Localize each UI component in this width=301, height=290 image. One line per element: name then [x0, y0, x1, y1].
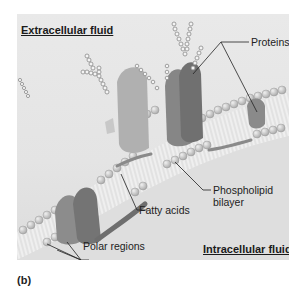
label-proteins: Proteins	[251, 36, 289, 48]
label-phospholipid-line1: Phospholipid	[213, 184, 273, 196]
label-fatty-acids: Fatty acids	[139, 204, 190, 216]
label-extracellular-fluid: Extracellular fluid	[21, 24, 113, 36]
peripheral-protein-right	[247, 99, 265, 129]
cell-membrane-illustration	[17, 14, 289, 260]
label-phospholipid-line2: bilayer	[213, 196, 244, 208]
integral-protein-central	[105, 67, 149, 153]
label-polar-regions: Polar regions	[83, 240, 145, 252]
integral-protein-left	[55, 188, 101, 245]
integral-protein-right	[165, 62, 203, 146]
membrane-diagram-panel: Extracellular fluid Proteins Phospholipi…	[17, 14, 289, 260]
panel-label: (b)	[17, 274, 31, 286]
label-intracellular-fluid: Intracellular fluid	[203, 243, 289, 255]
